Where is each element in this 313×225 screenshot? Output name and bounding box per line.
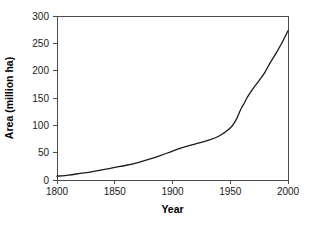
y-tick-label: 150 (32, 93, 49, 104)
x-tick-label: 1850 (104, 186, 127, 197)
y-tick-label: 300 (32, 11, 49, 22)
y-tick-label: 200 (32, 65, 49, 76)
chart-figure: 050100150200250300 18001850190019502000 … (0, 0, 313, 225)
y-axis-title: Area (million ha) (3, 57, 15, 139)
x-tick-label: 2000 (277, 186, 300, 197)
x-tick-label: 1800 (46, 186, 69, 197)
x-tick-label: 1900 (161, 186, 184, 197)
y-tick-label: 50 (38, 147, 50, 158)
y-tick-label: 100 (32, 120, 49, 131)
y-tick-label: 250 (32, 38, 49, 49)
y-tick-label: 0 (43, 175, 49, 186)
x-axis-title: Year (161, 203, 183, 215)
line-chart: 050100150200250300 18001850190019502000 … (0, 0, 313, 225)
x-tick-label: 1950 (219, 186, 242, 197)
